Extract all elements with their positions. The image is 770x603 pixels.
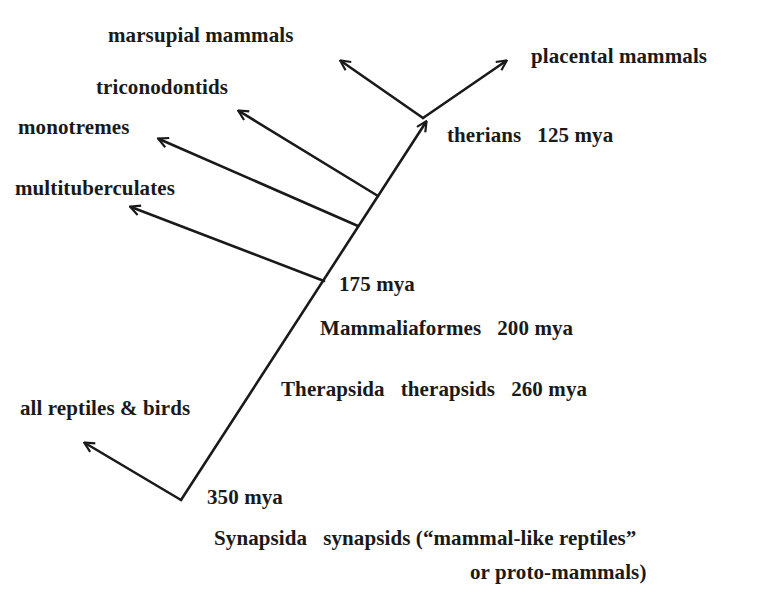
phylogenetic-tree-diagram: marsupial mammals placental mammals tric… — [0, 0, 770, 603]
reptiles-branch — [85, 443, 181, 500]
node-label-mammaliaformes: Mammaliaformes 200 mya — [320, 318, 573, 339]
placental-branch — [423, 61, 506, 118]
leaf-label-marsupial-mammals: marsupial mammals — [108, 25, 293, 46]
node-label-synapsida-continued: or proto-mammals) — [470, 562, 646, 583]
leaf-label-monotremes: monotremes — [18, 117, 129, 138]
leaf-label-placental-mammals: placental mammals — [531, 46, 707, 67]
leaf-label-multituberculates: multituberculates — [15, 178, 175, 199]
node-label-350-mya: 350 mya — [207, 487, 283, 508]
node-label-therapsida: Therapsida therapsids 260 mya — [281, 379, 587, 400]
leaf-label-reptiles-birds: all reptiles & birds — [20, 398, 190, 419]
multituberculates-branch — [131, 207, 324, 281]
leaf-label-triconodontids: triconodontids — [96, 77, 228, 98]
node-label-synapsida: Synapsida synapsids (“mammal-like reptil… — [214, 528, 636, 549]
main-trunk-branch — [181, 122, 426, 500]
monotremes-branch — [159, 139, 358, 226]
node-label-therians: therians 125 mya — [447, 125, 613, 146]
marsupial-branch — [341, 61, 423, 118]
node-label-175-mya: 175 mya — [339, 274, 415, 295]
